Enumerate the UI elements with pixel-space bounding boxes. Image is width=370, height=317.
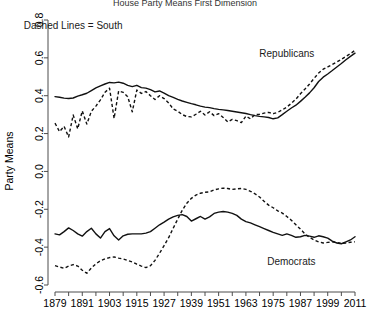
x-tick-label: 1939 (180, 297, 204, 309)
y-axis-title: Party Means (3, 132, 15, 191)
x-tick-label: 1903 (98, 297, 122, 309)
series-line-republicans-south (55, 50, 355, 137)
series-lines (55, 50, 355, 273)
x-tick-label: 1891 (71, 297, 95, 309)
y-tick-label: 0.0 (33, 164, 45, 179)
x-tick-label: 1999 (316, 297, 340, 309)
y-axis: -0.6-0.4-0.20.00.20.40.60.8 (33, 13, 48, 294)
x-tick-label: 1951 (207, 297, 231, 309)
y-tick-label: -0.4 (33, 238, 45, 256)
y-tick-label: 0.2 (33, 126, 45, 141)
x-tick-label: 1963 (234, 297, 258, 309)
x-tick-label: 1975 (262, 297, 286, 309)
series-line-republicans-non-south (55, 53, 355, 119)
y-tick-label: -0.6 (33, 276, 45, 294)
x-axis: 1879189119031915192719391951196319751987… (43, 292, 366, 309)
x-tick-label: 1879 (43, 297, 67, 309)
y-tick-label: 0.4 (33, 88, 45, 103)
chart-annotation-label: Republicans (259, 48, 314, 59)
x-tick-label: 2011 (344, 297, 367, 309)
chart-annotation-label: Democrats (267, 256, 315, 267)
chart-title: House Party Means First Dimension (113, 0, 257, 8)
chart-annotation-label: Dashed Lines = South (24, 20, 123, 31)
chart-canvas: House Party Means First Dimension -0.6-0… (0, 0, 370, 317)
party-means-chart: House Party Means First Dimension -0.6-0… (0, 0, 370, 317)
x-tick-label: 1927 (152, 297, 176, 309)
y-tick-label: -0.2 (33, 200, 45, 218)
chart-annotations: Dashed Lines = SouthRepublicansDemocrats (24, 20, 316, 268)
series-line-democrats-non-south (55, 212, 355, 244)
x-tick-label: 1915 (125, 297, 149, 309)
y-tick-label: 0.6 (33, 50, 45, 65)
x-tick-label: 1987 (289, 297, 313, 309)
